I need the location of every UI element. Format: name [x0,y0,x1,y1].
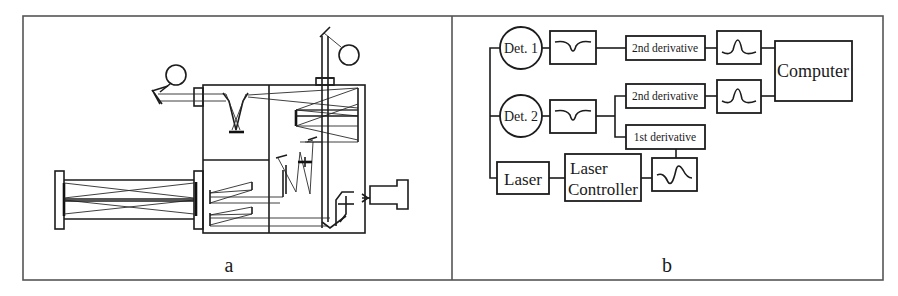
svg-text:2nd derivative: 2nd derivative [632,42,698,54]
svg-text:Laser: Laser [504,170,542,189]
inner-multipass-icon [210,182,252,226]
figure: a Det. 1 2nd derivative [0,0,898,296]
peak-signal-box-2 [717,80,761,113]
laser-module-icon [336,180,408,226]
n-mirror-icon [276,137,317,194]
svg-text:Laser: Laser [570,159,608,178]
multipass-cell-main-icon [296,88,358,142]
svg-text:2nd derivative: 2nd derivative [632,90,698,102]
svg-text:Det. 2: Det. 2 [504,109,538,124]
main-housing [203,85,365,233]
second-derivative-box-1: 2nd derivative [626,36,705,60]
peak-signal-box-1 [717,31,761,64]
first-derivative-box: 1st derivative [626,125,705,149]
svg-text:Computer: Computer [777,61,849,81]
svg-text:Controller: Controller [568,180,638,199]
det-1-node: Det. 1 [500,27,542,69]
dip-signal-box-2 [550,100,596,133]
caption-b: b [662,254,672,276]
left-bus-line [490,48,500,178]
multipass-cell-long-icon [55,171,196,229]
panel-b: Det. 1 2nd derivative Computer Det. [490,27,852,276]
top-flange [316,78,334,85]
beam-splitter-icon [298,157,312,167]
dispersive-signal-box [652,158,697,191]
panel-a: a [55,27,408,276]
svg-text:1st derivative: 1st derivative [634,131,696,143]
detector-2-icon [320,27,359,65]
svg-text:Det. 1: Det. 1 [504,41,538,56]
detector-1-icon [152,65,186,104]
housing-flange-left-top [194,88,203,106]
laser-controller-box: Laser Controller [565,154,641,201]
caption-a: a [225,254,234,276]
dip-signal-box-1 [550,31,596,64]
laser-box: Laser [497,162,549,194]
second-derivative-box-2: 2nd derivative [626,84,705,108]
focusing-mirrors-icon [223,93,248,132]
det-2-node: Det. 2 [500,95,542,137]
computer-box: Computer [775,41,852,101]
